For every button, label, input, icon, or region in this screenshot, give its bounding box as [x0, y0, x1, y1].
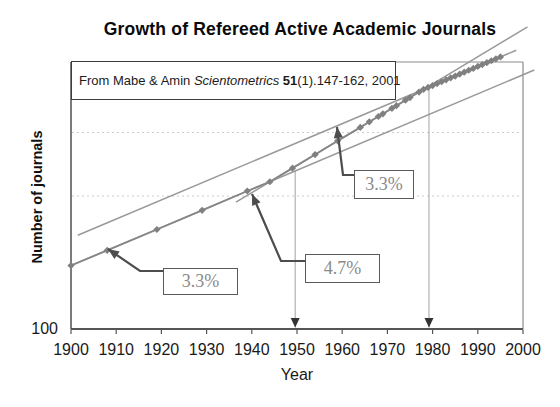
- x-tick-label: 1900: [53, 341, 89, 359]
- leader-line: [252, 194, 305, 261]
- x-tick-label: 1950: [279, 341, 315, 359]
- x-tick-label: 1940: [234, 341, 270, 359]
- transition-marker-arrow: [424, 318, 433, 328]
- x-tick-label: 2000: [505, 341, 541, 359]
- x-tick-label: 1970: [370, 341, 406, 359]
- data-point: [198, 207, 205, 214]
- annotation-label: 4.7%: [324, 258, 362, 279]
- leader-arrow: [334, 127, 343, 138]
- chart-title: Growth of Refereed Active Academic Journ…: [40, 19, 560, 40]
- annotation-label: 3.3%: [182, 271, 220, 292]
- annotation-mid-growth-rate: 4.7%: [305, 254, 380, 283]
- data-point: [153, 226, 160, 233]
- x-tick-label: 1920: [144, 341, 180, 359]
- annotation-label: 3.3%: [365, 174, 403, 195]
- citation-box: From Mabe & Amin Scientometrics 51(1).14…: [71, 61, 396, 100]
- annotation-early-growth-rate: 3.3%: [163, 268, 238, 295]
- y-axis-label: Number of journals: [29, 131, 45, 264]
- data-point: [67, 262, 74, 269]
- citation-volume: 51: [283, 73, 297, 88]
- annotation-late-growth-rate: 3.3%: [354, 170, 414, 199]
- x-axis-label: Year: [40, 366, 554, 384]
- x-tick-label: 1960: [324, 341, 360, 359]
- transition-marker-arrow: [291, 318, 300, 328]
- citation-prefix: From Mabe & Amin: [79, 73, 190, 88]
- x-tick-label: 1980: [415, 341, 451, 359]
- y-tick-label-100: 100: [30, 320, 58, 338]
- chart-figure: Growth of Refereed Active Academic Journ…: [0, 0, 560, 407]
- x-tick-label: 1910: [98, 341, 134, 359]
- citation-suffix: (1).147-162, 2001: [297, 73, 400, 88]
- citation-journal: Scientometrics: [194, 73, 279, 88]
- x-tick-label: 1930: [189, 341, 225, 359]
- leader-arrow: [108, 249, 120, 259]
- x-tick-label: 1990: [460, 341, 496, 359]
